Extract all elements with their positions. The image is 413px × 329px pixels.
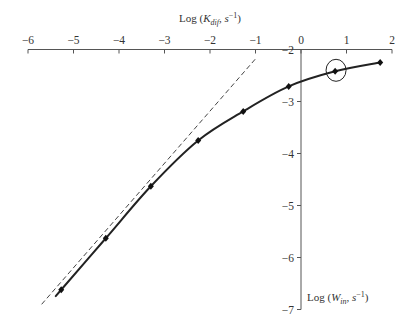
chart: −6−5−4−3−2−1012 −2−3−4−5−6−7 Log (Kdif, … — [0, 0, 413, 329]
data-point-diamond — [332, 68, 338, 75]
series-layer — [42, 58, 384, 304]
x-tick-label: 2 — [389, 34, 395, 46]
x-axis: −6−5−4−3−2−1012 — [22, 34, 395, 54]
y-tick-label: −4 — [282, 148, 294, 160]
x-tick-label: −2 — [204, 34, 216, 46]
x-tick-label: 1 — [344, 34, 350, 46]
x-tick-label: −5 — [67, 34, 79, 46]
x-tick-label: −1 — [249, 34, 261, 46]
y-tick-label: −6 — [282, 252, 294, 264]
asymptote-dashed-line — [42, 58, 256, 304]
fit-curve — [56, 63, 380, 297]
y-tick-label: −2 — [282, 44, 294, 56]
data-point-diamond — [240, 108, 246, 115]
x-tick-label: −3 — [158, 34, 170, 46]
x-axis-title: Log (Kdif, s−1) — [179, 11, 241, 27]
data-point-diamond — [377, 59, 383, 66]
y-tick-label: −5 — [282, 200, 294, 212]
x-tick-label: −6 — [22, 34, 34, 46]
svg-text:Log (Win, s−1): Log (Win, s−1) — [307, 290, 369, 306]
x-tick-label: −4 — [113, 34, 125, 46]
data-point-diamond — [286, 83, 292, 90]
svg-text:Log (Kdif, s−1): Log (Kdif, s−1) — [179, 11, 241, 27]
x-tick-label: 0 — [298, 34, 304, 46]
y-tick-label: −7 — [282, 304, 294, 316]
y-axis-title: Log (Win, s−1) — [307, 290, 369, 306]
y-tick-label: −3 — [282, 96, 294, 108]
